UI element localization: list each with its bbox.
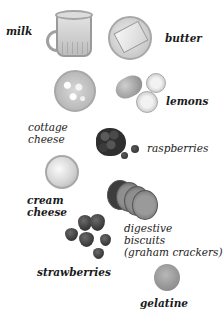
- raspberry: [121, 152, 128, 159]
- strawberry: [100, 234, 111, 246]
- raspberry: [131, 145, 139, 153]
- cream-cheese-label-line-2: cheese: [27, 206, 67, 218]
- strawberry: [79, 232, 94, 247]
- cottage-cheese-label: cottage cheese: [28, 121, 68, 145]
- jug-rim: [55, 10, 93, 20]
- digestive-biscuits-label-line-1: digestive: [124, 222, 223, 234]
- cottage-cheese-label-line-1: cottage: [28, 121, 68, 133]
- milk-label: milk: [6, 25, 32, 37]
- strawberries-label: strawberries: [37, 266, 111, 278]
- strawberry: [93, 248, 104, 259]
- biscuit: [132, 190, 158, 220]
- gelatine-image: [154, 264, 180, 291]
- cream-cheese-image: [45, 155, 79, 189]
- digestive-biscuits-label-line-2: biscuits: [124, 234, 223, 246]
- butter-label: butter: [165, 32, 202, 44]
- cottage-cheese-image: [54, 70, 96, 112]
- lemon-half: [146, 73, 166, 93]
- raspberries-label: raspberries: [147, 142, 208, 154]
- jug-measure-marks: [62, 42, 88, 54]
- lemon-half: [136, 91, 158, 113]
- ingredients-illustration: milk butter cottage cheese lemons raspbe…: [0, 0, 224, 316]
- cottage-cheese-label-line-2: cheese: [28, 133, 68, 145]
- cream-cheese-label: cream cheese: [27, 194, 67, 218]
- strawberry: [65, 228, 78, 241]
- digestive-biscuits-label-line-3: (graham crackers): [124, 246, 223, 258]
- cream-cheese-label-line-1: cream: [27, 194, 67, 206]
- strawberry: [90, 214, 105, 231]
- gelatine-label: gelatine: [140, 297, 188, 309]
- lemons-label: lemons: [166, 95, 208, 107]
- digestive-biscuits-label: digestive biscuits (graham crackers): [124, 222, 223, 258]
